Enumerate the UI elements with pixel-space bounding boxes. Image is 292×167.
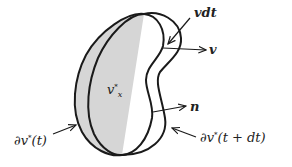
vdt-label: vdt [194, 6, 217, 19]
velocity-label: v [209, 43, 217, 56]
boundary-t-label: ∂v*(t) [14, 134, 47, 147]
region-label: v*x [107, 83, 122, 96]
normal-label: n [190, 100, 199, 113]
boundary-t-plus-dt-label: ∂v*(t + dt) [200, 131, 266, 144]
boundary-t-plus-dt-arrow [172, 128, 196, 137]
boundary-t-arrow [53, 125, 76, 134]
